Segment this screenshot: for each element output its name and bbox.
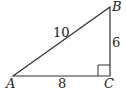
side-ac-label: 8 [58, 76, 66, 89]
vertex-a-label: A [5, 76, 15, 89]
vertex-b-label: B [111, 0, 122, 14]
right-angle-marker [98, 65, 110, 76]
vertex-c-label: C [104, 76, 114, 89]
side-ab-label: 10 [53, 25, 70, 40]
triangle-abc [13, 7, 110, 76]
side-bc-label: 6 [112, 35, 120, 50]
triangle-diagram: A B C 10 6 8 [0, 0, 126, 89]
